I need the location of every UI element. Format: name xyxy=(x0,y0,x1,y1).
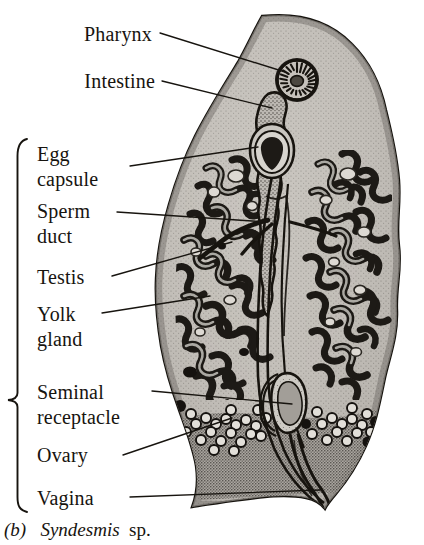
label-seminal-receptacle-line-1: Seminal xyxy=(37,380,120,405)
label-testis: Testis xyxy=(37,265,85,290)
label-vagina-line-1: Vagina xyxy=(37,486,94,511)
label-sperm-duct: Sperm duct xyxy=(37,199,90,249)
label-seminal-receptacle-line-2: receptacle xyxy=(37,405,120,430)
label-vagina: Vagina xyxy=(37,486,94,511)
label-yolk-gland: Yolk gland xyxy=(37,302,82,352)
figure-syndesmis-anatomy: Pharynx Intestine Egg capsule Sperm duct… xyxy=(0,0,424,545)
caption-suffix: sp. xyxy=(129,519,151,540)
caption-genus: Syndesmis xyxy=(40,519,119,540)
caption-index: (b) xyxy=(4,519,26,540)
label-ovary-line-1: Ovary xyxy=(37,443,88,468)
label-ovary: Ovary xyxy=(37,443,88,468)
label-seminal-receptacle: Seminal receptacle xyxy=(37,380,120,430)
label-intestine: Intestine xyxy=(84,69,155,94)
label-egg-capsule-line-2: capsule xyxy=(37,167,98,192)
label-egg-capsule: Egg capsule xyxy=(37,142,98,192)
label-egg-capsule-line-1: Egg xyxy=(37,142,98,167)
pharynx xyxy=(275,58,319,102)
label-pharynx-line-1: Pharynx xyxy=(84,22,152,47)
label-intestine-line-1: Intestine xyxy=(84,69,155,94)
figure-caption: (b) Syndesmis sp. xyxy=(4,519,151,541)
label-sperm-duct-line-1: Sperm xyxy=(37,199,90,224)
label-sperm-duct-line-2: duct xyxy=(37,224,90,249)
label-testis-line-1: Testis xyxy=(37,265,85,290)
label-yolk-gland-line-2: gland xyxy=(37,327,82,352)
label-yolk-gland-line-1: Yolk xyxy=(37,302,82,327)
label-pharynx: Pharynx xyxy=(84,22,152,47)
reproductive-system-bracket xyxy=(8,139,27,512)
egg-capsule xyxy=(250,124,294,178)
